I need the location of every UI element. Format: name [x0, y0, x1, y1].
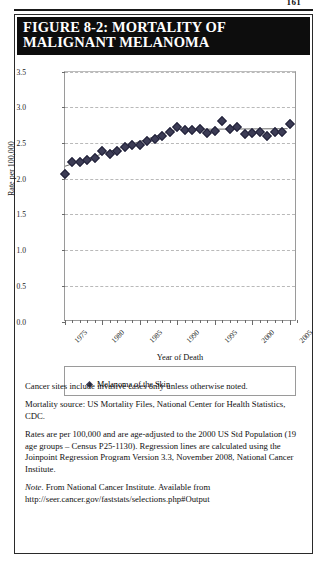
y-tick-label: 0.5: [17, 281, 27, 290]
x-tick-mark: [65, 320, 66, 325]
gridline: [65, 250, 295, 251]
x-tick-mark: [95, 320, 96, 323]
x-tick-mark: [200, 320, 201, 323]
note-source-attribution: Note. From National Cancer Institute. Av…: [25, 482, 302, 505]
figure-title-line-2: MALIGNANT MELANOMA: [23, 35, 304, 50]
x-tick-mark: [132, 320, 133, 323]
x-tick-mark: [125, 320, 126, 323]
x-tick-mark: [185, 320, 186, 323]
x-tick-mark: [267, 320, 268, 323]
y-tick-label: 1.0: [17, 246, 27, 255]
gridline: [65, 72, 295, 73]
note-cancer-sites: Cancer sites include invasive cases only…: [25, 381, 302, 392]
gridline: [65, 179, 295, 180]
x-tick-mark: [177, 320, 178, 325]
x-tick-mark: [140, 320, 141, 325]
figure-notes: Cancer sites include invasive cases only…: [15, 381, 312, 505]
x-tick-mark: [162, 320, 163, 323]
x-tick-label: 1980: [110, 328, 127, 345]
y-tick-label: 2.0: [17, 174, 27, 183]
note-source-body: From National Cancer Institute. Availabl…: [25, 482, 210, 503]
note-label: Note.: [25, 482, 44, 492]
x-tick-mark: [237, 320, 238, 323]
gridline: [65, 286, 295, 287]
y-tick-mark: [62, 250, 65, 251]
figure-title-line-1: FIGURE 8-2: MORTALITY OF: [23, 20, 304, 35]
plot-frame: [64, 71, 296, 321]
y-tick-label: 3.0: [17, 103, 27, 112]
x-tick-mark: [297, 320, 298, 323]
header-rule: [14, 9, 313, 11]
y-tick-label: 0.0: [17, 317, 27, 326]
x-tick-mark: [252, 320, 253, 325]
x-tick-mark: [282, 320, 283, 323]
x-tick-mark: [222, 320, 223, 323]
x-tick-mark: [207, 320, 208, 323]
y-axis-title: Rate per 100,000: [7, 141, 16, 196]
y-tick-label: 2.5: [17, 138, 27, 147]
chart-area: Rate per 100,000 Year of Death Melanoma …: [19, 61, 308, 401]
note-rates-methodology: Rates are per 100,000 and are age-adjust…: [25, 429, 302, 475]
x-tick-label: 1985: [147, 328, 164, 345]
x-tick-mark: [72, 320, 73, 323]
y-tick-mark: [62, 214, 65, 215]
x-tick-mark: [80, 320, 81, 323]
x-tick-label: 2000: [259, 328, 276, 345]
y-tick-mark: [62, 143, 65, 144]
x-tick-label: 1975: [72, 328, 89, 345]
figure-title: FIGURE 8-2: MORTALITY OF MALIGNANT MELAN…: [17, 17, 310, 55]
x-tick-mark: [290, 320, 291, 325]
y-tick-mark: [62, 107, 65, 108]
x-tick-mark: [245, 320, 246, 323]
x-tick-mark: [102, 320, 103, 325]
gridline: [65, 214, 295, 215]
x-tick-mark: [260, 320, 261, 323]
x-tick-label: 2005: [297, 328, 314, 345]
gridline: [65, 107, 295, 108]
x-tick-mark: [275, 320, 276, 323]
x-axis-title: Year of Death: [64, 353, 296, 362]
x-tick-mark: [192, 320, 193, 323]
x-tick-mark: [117, 320, 118, 323]
x-tick-mark: [170, 320, 171, 323]
x-tick-mark: [87, 320, 88, 323]
y-tick-mark: [62, 286, 65, 287]
y-tick-mark: [62, 72, 65, 73]
y-tick-label: 3.5: [17, 67, 27, 76]
x-tick-label: 1990: [185, 328, 202, 345]
figure-container: FIGURE 8-2: MORTALITY OF MALIGNANT MELAN…: [14, 14, 313, 554]
note-mortality-source: Mortality source: US Mortality Files, Na…: [25, 399, 302, 422]
page-number: 161: [0, 0, 327, 7]
x-tick-mark: [110, 320, 111, 323]
x-tick-mark: [155, 320, 156, 323]
x-tick-mark: [230, 320, 231, 323]
x-tick-mark: [215, 320, 216, 325]
x-tick-label: 1995: [222, 328, 239, 345]
x-tick-mark: [147, 320, 148, 323]
regression-line: [65, 72, 295, 320]
y-tick-label: 1.5: [17, 210, 27, 219]
gridline: [65, 143, 295, 144]
